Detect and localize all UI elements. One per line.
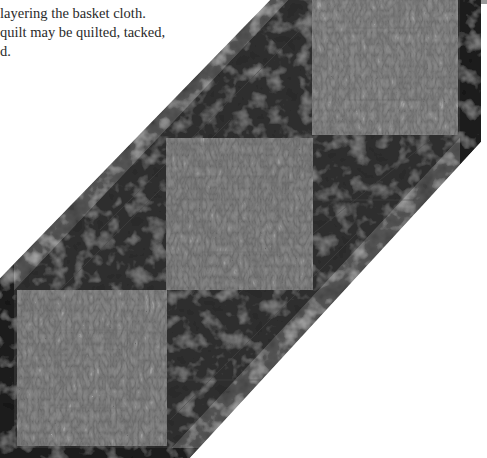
middle-light-block bbox=[166, 138, 313, 290]
text-line-2: quilt may be quilted, tacked, bbox=[0, 23, 260, 42]
text-line-3: d. bbox=[0, 42, 260, 61]
lower-light-block bbox=[17, 290, 167, 446]
body-text: p g layering the basket cloth. quilt may… bbox=[0, 0, 260, 61]
text-line-1: layering the basket cloth. bbox=[0, 4, 260, 23]
quilt-photo bbox=[0, 0, 487, 458]
page-edge-tab bbox=[481, 0, 487, 4]
upper-light-block bbox=[312, 0, 458, 135]
